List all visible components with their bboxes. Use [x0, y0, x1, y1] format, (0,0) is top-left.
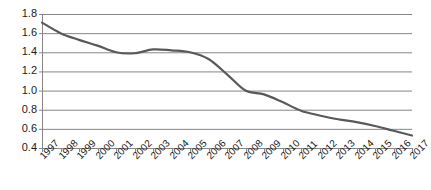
data-line-series-1: [42, 23, 412, 136]
